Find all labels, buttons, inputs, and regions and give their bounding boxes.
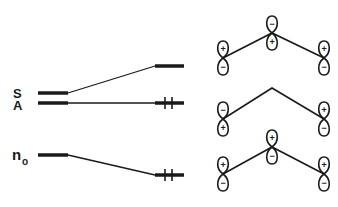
p-orbital-left: + − [218,41,229,75]
svg-text:+: + [321,160,326,170]
svg-text:−: − [220,178,225,188]
svg-text:+: + [220,44,225,54]
orbital-row-s: + − − + + − [218,16,330,75]
svg-text:+: + [269,37,274,47]
svg-text:−: − [321,62,326,72]
svg-text:−: − [220,105,225,115]
p-orbital-center: + − [267,130,278,164]
svg-text:+: + [220,160,225,170]
p-orbital-left: + − [218,157,229,191]
p-orbital-right: + − [319,157,330,191]
svg-text:+: + [220,123,225,133]
p-orbital-right: + − [319,41,330,75]
svg-text:+: + [321,105,326,115]
p-orbital-right: + − [319,102,330,136]
svg-text:+: + [321,44,326,54]
svg-text:−: − [269,19,274,29]
orbital-row-n0: + − + − + − [218,130,330,191]
svg-text:o: o [22,156,28,167]
svg-text:−: − [269,151,274,161]
svg-text:+: + [269,133,274,143]
correlation-n0 [68,155,155,175]
label-a: A [13,98,23,113]
mo-diagram: S A n o + − − + [0,0,338,207]
orbital-row-a: − + + − [218,88,330,136]
p-orbital-left: − + [218,102,229,136]
bond-skeleton [223,88,324,119]
label-n0: n o [12,146,28,167]
svg-text:−: − [321,123,326,133]
correlation-s [68,66,155,93]
svg-text:−: − [321,178,326,188]
svg-text:−: − [220,62,225,72]
p-orbital-center: − + [267,16,278,50]
svg-text:n: n [12,146,21,163]
